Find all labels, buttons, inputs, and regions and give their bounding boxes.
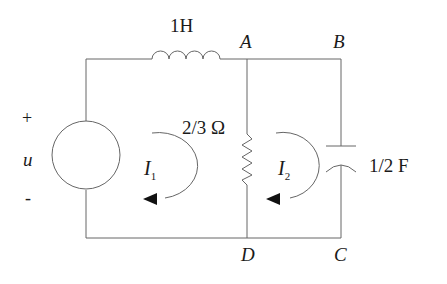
loop-i2-arrow (266, 132, 319, 205)
voltage-source (52, 121, 120, 189)
node-a-label: A (238, 31, 252, 52)
loop-i1-arrow (143, 133, 198, 205)
wires (86, 59, 341, 238)
inductor-label: 1H (170, 15, 194, 36)
capacitor-label: 1/2 F (369, 155, 409, 176)
resistor (242, 134, 252, 185)
circuit-diagram: 1H A B D C + u - 2/3 Ω 1/2 F I1 I2 (0, 0, 447, 284)
node-b-label: B (333, 31, 345, 52)
source-minus: - (25, 188, 31, 208)
source-label: u (23, 149, 33, 170)
loop-i2-label: I2 (277, 157, 290, 182)
resistor-label: 2/3 Ω (182, 117, 225, 138)
loop-i1-label: I1 (143, 157, 156, 182)
source-plus: + (22, 108, 32, 128)
node-d-label: D (240, 244, 255, 265)
node-c-label: C (334, 244, 347, 265)
inductor (152, 51, 220, 59)
